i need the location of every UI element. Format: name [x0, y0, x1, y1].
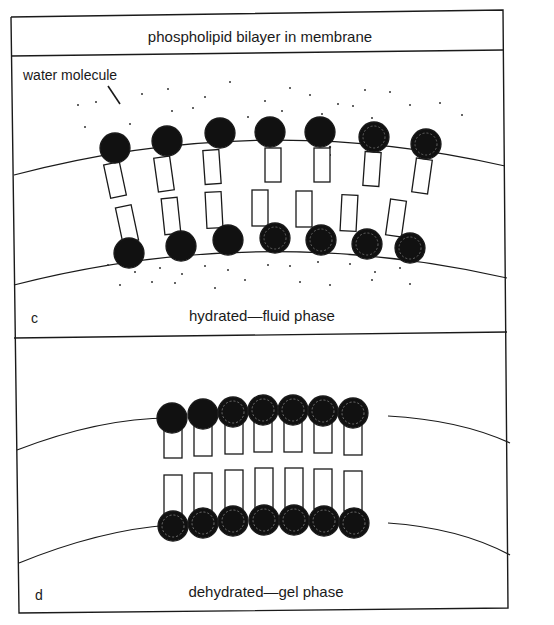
- lipid-head: [338, 398, 368, 428]
- upper-membrane-surface-left: [17, 418, 170, 450]
- lipid-head: [279, 505, 309, 535]
- lipid-molecule: [114, 205, 144, 268]
- lipid-tail: [285, 468, 303, 508]
- lipid-head: [308, 396, 338, 426]
- lipid-head: [218, 506, 248, 536]
- lipid-head: [278, 395, 308, 425]
- lipid-head: [157, 403, 187, 433]
- lipid-head: [249, 505, 279, 535]
- lipid-molecule: [305, 117, 335, 182]
- lipid-molecule: [411, 129, 441, 194]
- panel-c: [14, 81, 507, 289]
- panel-c-caption: hydrated—fluid phase: [189, 307, 335, 324]
- lower-membrane-surface: [14, 252, 507, 285]
- panel-c-letter: c: [31, 310, 38, 326]
- lipid-tail: [255, 468, 273, 508]
- lipid-molecule: [359, 122, 389, 187]
- lipid-molecule: [203, 118, 235, 185]
- lipid-molecule: [296, 191, 336, 255]
- lipid-tail: [344, 471, 362, 511]
- panel-separator: [14, 332, 507, 338]
- lipid-head: [339, 508, 369, 538]
- lipid-head: [158, 511, 188, 541]
- lower-membrane-surface-right: [388, 523, 510, 555]
- lower-heads-d: [158, 505, 369, 541]
- lipid-head: [188, 508, 218, 538]
- lipid-tail: [314, 469, 332, 509]
- water-pointer-line: [108, 86, 120, 104]
- lipid-molecule: [340, 195, 382, 259]
- lower-membrane-surface-left: [19, 525, 170, 563]
- lipid-molecule: [255, 117, 285, 182]
- lipid-tail: [164, 475, 182, 515]
- water-molecule-label: water molecule: [23, 67, 117, 83]
- lipid-molecule: [386, 199, 425, 263]
- lipid-tail: [225, 470, 243, 510]
- upper-leaflet-c: [100, 117, 441, 198]
- lipid-head: [248, 395, 278, 425]
- lipid-head: [218, 397, 248, 427]
- diagram-title: phospholipid bilayer in membrane: [148, 28, 372, 45]
- panel-d: [17, 395, 510, 563]
- lipid-molecule: [252, 190, 290, 253]
- lipid-molecule: [205, 192, 243, 255]
- lipid-head: [309, 506, 339, 536]
- lipid-molecule: [100, 133, 130, 198]
- lipid-molecule: [152, 126, 182, 192]
- panel-d-caption: dehydrated—gel phase: [188, 583, 343, 600]
- lipid-molecule: [161, 197, 196, 261]
- title-separator: [11, 50, 503, 56]
- upper-membrane-surface-right: [388, 416, 510, 443]
- lipid-tail: [194, 473, 212, 513]
- lipid-head: [188, 399, 218, 429]
- panel-d-letter: d: [35, 587, 43, 603]
